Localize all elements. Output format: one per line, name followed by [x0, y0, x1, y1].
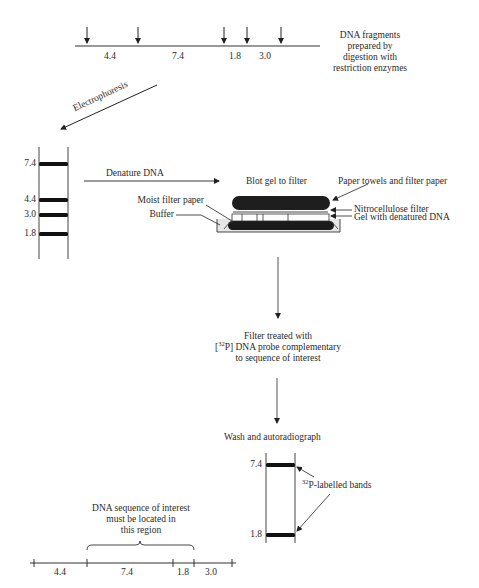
top-segment-label: 3.0 [259, 51, 271, 62]
diagram-graphics [0, 0, 479, 588]
towels-label: Paper towels and filter paper [338, 176, 447, 187]
top-segment-label: 4.4 [104, 51, 116, 62]
restriction-cut-arrows [87, 27, 281, 43]
blot-label: Blot gel to filter [246, 176, 307, 187]
bottom-restriction-map [30, 541, 236, 567]
top-map-caption: DNA fragments prepared by digestion with… [318, 30, 422, 74]
denature-label: Denature DNA [106, 168, 164, 179]
moist-filter-label: Moist filter paper [110, 195, 204, 206]
buffer-label: Buffer [120, 209, 174, 220]
gel-band-label: 7.4 [14, 158, 36, 169]
bottom-segment-label: 4.4 [54, 567, 66, 578]
top-restriction-map [75, 27, 320, 46]
gel-band-label: 3.0 [14, 209, 36, 220]
gel-band-label: 1.8 [14, 228, 36, 239]
blot-apparatus [176, 184, 368, 232]
top-segment-label: 1.8 [229, 51, 241, 62]
gel-denatured-label: Gel with denatured DNA [354, 212, 450, 223]
top-segment-label: 7.4 [172, 51, 184, 62]
gel-lane [39, 147, 68, 259]
bottom-segment-label: 3.0 [205, 567, 217, 578]
labelled-bands-annotation: 32P-labelled bands [302, 480, 372, 491]
bottom-map-caption: DNA sequence of interest must be located… [74, 503, 208, 536]
autorad-band-label: 1.8 [240, 529, 262, 540]
probe-step-text: Filter treated with [32P] DNA probe comp… [198, 331, 358, 364]
gel-band-label: 4.4 [14, 194, 36, 205]
region-brace [87, 541, 194, 550]
autoradiograph-lane [266, 453, 330, 543]
bottom-segment-label: 7.4 [121, 567, 133, 578]
wash-label: Wash and autoradiograph [224, 432, 321, 443]
autorad-band-label: 7.4 [240, 459, 262, 470]
bottom-segment-label: 1.8 [177, 567, 189, 578]
